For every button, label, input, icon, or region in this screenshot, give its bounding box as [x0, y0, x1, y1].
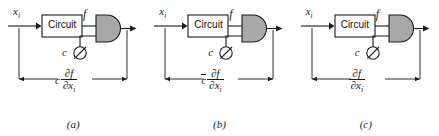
and-gate — [242, 15, 267, 42]
diagram-panel: xi Circuit f c c ∂f ∂xi (a) — [0, 0, 146, 136]
dimension-arrowhead-left — [165, 77, 170, 82]
derivative-denominator: ∂xi — [207, 80, 223, 94]
denominator-subscript: i — [73, 85, 75, 94]
figure-panels-container: xi Circuit f c c ∂f ∂xi (a) — [0, 0, 439, 136]
dimension-arrowhead-left — [312, 77, 317, 82]
denominator-subscript: i — [361, 85, 363, 94]
panel-caption: (a) — [0, 118, 146, 130]
diagram-panel: xi Circuit f c ∂f ∂xi (c) — [293, 0, 439, 136]
input-arrowhead — [329, 23, 335, 30]
dimension-arrowhead-right — [415, 77, 420, 82]
control-wire — [226, 36, 242, 47]
f-label: f — [83, 8, 86, 20]
derivative-coefficient: c — [201, 75, 207, 86]
derivative-coefficient: c — [55, 75, 61, 86]
f-label: f — [376, 8, 379, 20]
dimension-arrowhead-right — [122, 77, 127, 82]
dimension-arrowhead-left — [19, 77, 24, 82]
and-gate — [389, 15, 414, 42]
input-arrowhead — [182, 23, 188, 30]
derivative-denominator: ∂xi — [61, 80, 77, 94]
output-arrowhead — [130, 25, 137, 31]
circuit-block-label: Circuit — [341, 20, 369, 30]
denominator-base: ∂x — [209, 79, 219, 91]
input-label: xi — [13, 6, 20, 20]
derivative-expression: ∂f ∂xi — [348, 68, 365, 94]
derivative-numerator: ∂f — [209, 68, 222, 79]
panel-caption: (b) — [146, 118, 292, 130]
derivative-expression: c ∂f ∂xi — [55, 68, 77, 94]
output-arrowhead — [276, 25, 283, 31]
and-gate — [96, 15, 121, 42]
input-label: xi — [159, 6, 166, 20]
derivative-numerator: ∂f — [351, 68, 364, 79]
derivative-expression: c ∂f ∂xi — [201, 68, 223, 94]
derivative-fraction: ∂f ∂xi — [207, 68, 223, 94]
input-label-subscript: i — [164, 11, 166, 20]
circuit-block-label: Circuit — [48, 20, 76, 30]
control-wire — [373, 36, 389, 47]
input-label-subscript: i — [18, 11, 20, 20]
panel-caption: (c) — [293, 118, 439, 130]
derivative-denominator: ∂xi — [349, 80, 365, 94]
input-label: xi — [306, 6, 313, 20]
denominator-base: ∂x — [63, 79, 73, 91]
input-label-subscript: i — [311, 11, 313, 20]
control-label: c — [208, 47, 213, 58]
f-label: f — [229, 8, 232, 20]
circuit-block-label: Circuit — [194, 20, 222, 30]
derivative-fraction: ∂f ∂xi — [349, 68, 365, 94]
diagram-panel: xi Circuit f c c ∂f ∂xi (b) — [146, 0, 292, 136]
denominator-base: ∂x — [351, 79, 361, 91]
derivative-numerator: ∂f — [63, 68, 76, 79]
denominator-subscript: i — [220, 85, 222, 94]
control-wire — [80, 36, 96, 47]
input-arrowhead — [36, 23, 42, 30]
control-label: c — [62, 47, 67, 58]
derivative-fraction: ∂f ∂xi — [61, 68, 77, 94]
control-label: c — [355, 47, 360, 58]
dimension-arrowhead-right — [268, 77, 273, 82]
output-arrowhead — [423, 25, 430, 31]
